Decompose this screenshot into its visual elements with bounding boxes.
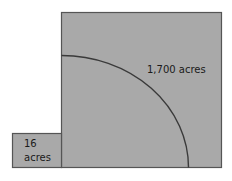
large-area-label: 1,700 acres: [147, 64, 206, 76]
small-area-label-line2: acres: [24, 152, 51, 164]
small-area-label-line1: 16: [24, 138, 37, 150]
large-square: [62, 13, 222, 168]
